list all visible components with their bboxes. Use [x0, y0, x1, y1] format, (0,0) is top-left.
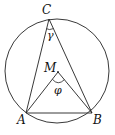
label-phi: φ: [54, 84, 62, 97]
label-c: C: [42, 3, 51, 17]
label-m: M: [43, 61, 57, 75]
label-gamma: γ: [47, 29, 54, 42]
circumcircle: [5, 19, 109, 123]
label-b: B: [92, 113, 102, 127]
segment-mb: [58, 72, 92, 113]
angle-arc-phi: [52, 79, 64, 82]
geometry-diagram: C γ M φ A B: [0, 0, 115, 135]
label-a: A: [16, 113, 26, 127]
center-point-m: [57, 71, 59, 73]
